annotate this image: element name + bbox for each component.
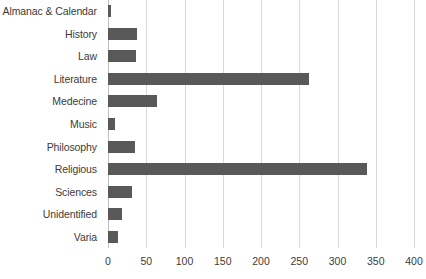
bar-row — [108, 90, 414, 113]
category-label: Religious — [0, 158, 103, 181]
category-label: Philosophy — [0, 135, 103, 158]
bar — [108, 163, 367, 175]
category-label: Almanac & Calendar — [0, 0, 103, 23]
category-label: Music — [0, 113, 103, 136]
bar-chart: Almanac & CalendarHistoryLawLiteratureMe… — [0, 0, 426, 279]
category-label: Medecine — [0, 90, 103, 113]
bar-row — [108, 45, 414, 68]
gridline — [414, 0, 415, 248]
bar — [108, 5, 111, 17]
value-tick-label: 350 — [367, 255, 385, 267]
bar — [108, 50, 136, 62]
bar — [108, 95, 157, 107]
value-tick-label: 150 — [214, 255, 232, 267]
bar — [108, 118, 115, 130]
bars-layer — [108, 0, 414, 248]
category-label: Unidentified — [0, 203, 103, 226]
bar-row — [108, 203, 414, 226]
value-tick-label: 100 — [176, 255, 194, 267]
bar-row — [108, 0, 414, 23]
value-axis: 050100150200250300350400 — [108, 248, 414, 279]
value-tick-label: 0 — [105, 255, 111, 267]
value-tick-label: 300 — [329, 255, 347, 267]
bar-row — [108, 225, 414, 248]
category-label: Law — [0, 45, 103, 68]
bar-row — [108, 68, 414, 91]
bar-row — [108, 23, 414, 46]
bar — [108, 28, 137, 40]
category-label: Sciences — [0, 180, 103, 203]
value-tick-label: 50 — [140, 255, 152, 267]
bar — [108, 231, 118, 243]
category-axis: Almanac & CalendarHistoryLawLiteratureMe… — [0, 0, 103, 248]
bar-row — [108, 135, 414, 158]
bar-row — [108, 158, 414, 181]
category-label: Literature — [0, 68, 103, 91]
plot-area — [108, 0, 414, 248]
category-label: History — [0, 23, 103, 46]
value-tick-label: 250 — [290, 255, 308, 267]
bar-row — [108, 113, 414, 136]
bar — [108, 141, 135, 153]
bar — [108, 186, 132, 198]
bar — [108, 73, 309, 85]
value-tick-label: 200 — [252, 255, 270, 267]
category-label: Varia — [0, 225, 103, 248]
value-tick-label: 400 — [405, 255, 423, 267]
bar-row — [108, 180, 414, 203]
bar — [108, 208, 122, 220]
